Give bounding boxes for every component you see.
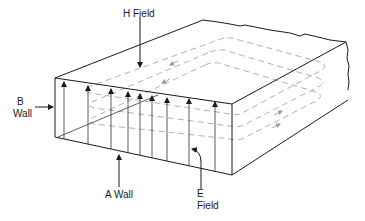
e-field-label-line2: Field bbox=[197, 200, 219, 211]
b-wall-label-line1: B bbox=[17, 96, 24, 107]
waveguide-diagram: H Field B Wall A Wall E Field bbox=[0, 0, 365, 221]
e-field-label-line1: E bbox=[197, 188, 204, 199]
h-field-loops bbox=[85, 38, 324, 140]
waveguide-outline bbox=[55, 20, 349, 175]
b-wall-label-line2: Wall bbox=[13, 108, 32, 119]
h-field-label: H Field bbox=[123, 8, 155, 19]
a-wall-label: A Wall bbox=[105, 189, 133, 200]
